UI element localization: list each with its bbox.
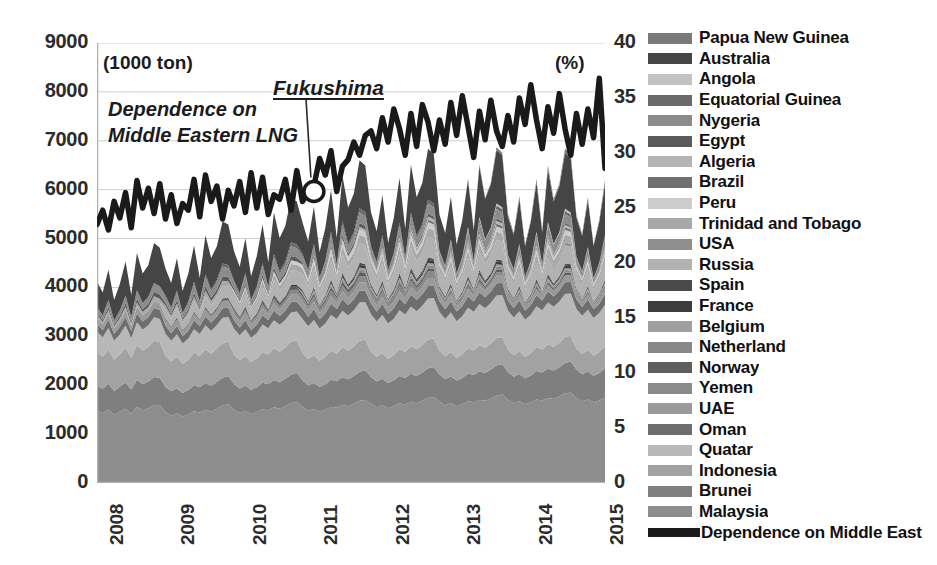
legend-label: Netherland — [699, 337, 786, 357]
legend-label: Indonesia — [699, 461, 777, 481]
y-right-tick-15: 15 — [614, 305, 636, 328]
legend-label: Malaysia — [699, 502, 768, 522]
legend-swatch-icon — [648, 177, 692, 188]
y-right-tick-5: 5 — [614, 415, 625, 438]
legend-item-egypt[interactable]: Egypt — [648, 131, 937, 152]
legend-item-yemen[interactable]: Yemen — [648, 378, 937, 399]
x-tick-2013: 2013 — [463, 504, 485, 545]
legend-item-dependence-on-middle-east[interactable]: Dependence on Middle East — [648, 522, 937, 543]
y-right-tick-25: 25 — [614, 195, 636, 218]
legend-label: Algeria — [699, 152, 755, 172]
legend-item-quatar[interactable]: Quatar — [648, 440, 937, 461]
legend-swatch-icon — [648, 259, 692, 270]
y-right-tick-10: 10 — [614, 360, 636, 383]
legend-swatch-icon — [648, 383, 692, 394]
legend-swatch-icon — [648, 95, 692, 106]
legend-label: Trinidad and Tobago — [699, 214, 861, 234]
legend-label: Dependence on Middle East — [701, 523, 922, 543]
legend-item-brunei[interactable]: Brunei — [648, 481, 937, 502]
legend-item-algeria[interactable]: Algeria — [648, 152, 937, 173]
legend-item-oman[interactable]: Oman — [648, 419, 937, 440]
y-left-tick-3000: 3000 — [0, 323, 88, 346]
x-tick-2015: 2015 — [606, 504, 628, 545]
y-left-tick-5000: 5000 — [0, 226, 88, 249]
y-left-tick-1000: 1000 — [0, 421, 88, 444]
legend-label: Brazil — [699, 172, 744, 192]
legend-item-trinidad-and-tobago[interactable]: Trinidad and Tobago — [648, 213, 937, 234]
legend-item-usa[interactable]: USA — [648, 234, 937, 255]
legend-swatch-icon — [648, 362, 692, 373]
legend-swatch-icon — [648, 403, 692, 414]
y-left-tick-6000: 6000 — [0, 177, 88, 200]
y-right-tick-30: 30 — [614, 140, 636, 163]
legend-swatch-icon — [648, 321, 692, 332]
legend-swatch-icon — [648, 465, 692, 476]
legend-item-indonesia[interactable]: Indonesia — [648, 460, 937, 481]
legend-swatch-icon — [648, 301, 692, 312]
dependence-callout: Dependence on Middle Eastern LNG — [108, 96, 298, 148]
legend-swatch-icon — [648, 528, 700, 537]
x-tick-2012: 2012 — [392, 504, 414, 545]
legend-label: Egypt — [699, 131, 745, 151]
legend-item-angola[interactable]: Angola — [648, 69, 937, 90]
legend-swatch-icon — [648, 74, 692, 85]
legend-swatch-icon — [648, 53, 692, 64]
x-tick-2011: 2011 — [320, 505, 342, 545]
legend-label: Quatar — [699, 440, 753, 460]
y-right-tick-20: 20 — [614, 250, 636, 273]
dependence-callout-line2: Middle Eastern LNG — [108, 122, 298, 148]
legend-item-brazil[interactable]: Brazil — [648, 172, 937, 193]
legend-item-australia[interactable]: Australia — [648, 49, 937, 70]
fukushima-callout: Fukushima — [273, 76, 384, 100]
legend-label: Belgium — [699, 317, 765, 337]
y-right-tick-40: 40 — [614, 30, 636, 53]
y-right-tick-0: 0 — [614, 470, 625, 493]
fukushima-marker-icon — [304, 182, 324, 202]
legend-item-russia[interactable]: Russia — [648, 255, 937, 276]
legend-label: Yemen — [699, 378, 753, 398]
x-tick-2008: 2008 — [106, 504, 128, 545]
legend-label: Papua New Guinea — [699, 28, 849, 48]
legend-item-france[interactable]: France — [648, 296, 937, 317]
legend-item-equatorial-guinea[interactable]: Equatorial Guinea — [648, 90, 937, 111]
legend-swatch-icon — [648, 486, 692, 497]
y-left-tick-8000: 8000 — [0, 79, 88, 102]
legend-item-papua-new-guinea[interactable]: Papua New Guinea — [648, 28, 937, 49]
y-left-tick-2000: 2000 — [0, 372, 88, 395]
legend-label: Russia — [699, 255, 754, 275]
legend-item-netherland[interactable]: Netherland — [648, 337, 937, 358]
y-left-tick-0: 0 — [0, 470, 88, 493]
legend-swatch-icon — [648, 33, 692, 44]
legend-label: Norway — [699, 358, 759, 378]
legend-swatch-icon — [648, 115, 692, 126]
legend-label: Spain — [699, 275, 744, 295]
legend-label: Australia — [699, 49, 770, 69]
dependence-callout-line1: Dependence on — [108, 96, 298, 122]
legend-item-belgium[interactable]: Belgium — [648, 316, 937, 337]
legend-item-norway[interactable]: Norway — [648, 358, 937, 379]
legend-label: France — [699, 296, 754, 316]
legend-label: Equatorial Guinea — [699, 90, 841, 110]
legend-item-peru[interactable]: Peru — [648, 193, 937, 214]
x-tick-2014: 2014 — [535, 504, 557, 545]
legend-swatch-icon — [648, 424, 692, 435]
legend-swatch-icon — [648, 280, 692, 291]
legend-swatch-icon — [648, 156, 692, 167]
right-axis-unit-label: (%) — [555, 52, 585, 74]
legend-item-uae[interactable]: UAE — [648, 399, 937, 420]
legend: Papua New GuineaAustraliaAngolaEquatoria… — [648, 28, 937, 543]
left-axis-unit-label: (1000 ton) — [103, 52, 193, 74]
legend-swatch-icon — [648, 218, 692, 229]
chart-figure: 0100020003000400050006000700080009000 05… — [0, 0, 937, 565]
legend-label: Nygeria — [699, 111, 760, 131]
legend-label: Oman — [699, 420, 746, 440]
legend-label: Brunei — [699, 481, 752, 501]
legend-swatch-icon — [648, 136, 692, 147]
legend-item-malaysia[interactable]: Malaysia — [648, 502, 937, 523]
legend-label: Peru — [699, 193, 736, 213]
legend-item-nygeria[interactable]: Nygeria — [648, 110, 937, 131]
legend-item-spain[interactable]: Spain — [648, 275, 937, 296]
legend-swatch-icon — [648, 198, 692, 209]
x-tick-2010: 2010 — [249, 504, 271, 545]
y-left-tick-9000: 9000 — [0, 30, 88, 53]
